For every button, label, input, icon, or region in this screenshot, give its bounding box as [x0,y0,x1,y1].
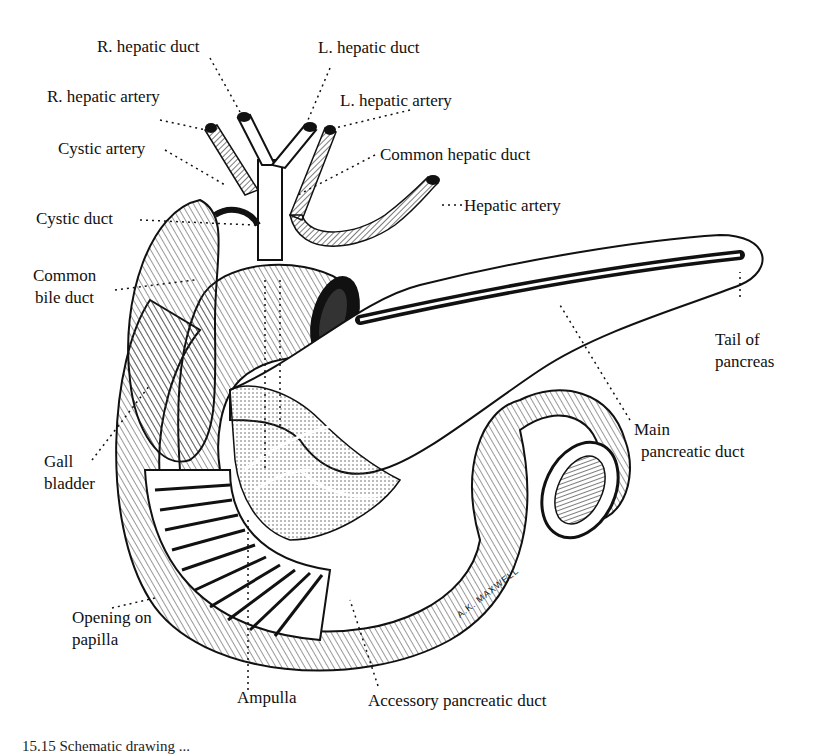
label-l-hepatic-artery: L. hepatic artery [340,91,452,110]
label-cystic-duct: Cystic duct [36,209,113,228]
label-l-hepatic-duct: L. hepatic duct [318,38,420,57]
cystic-duct-shape [215,210,258,225]
common-bile-duct [258,160,282,260]
label-main-pancreatic-duct-line2: pancreatic duct [641,442,744,461]
label-accessory-pancreatic-duct: Accessory pancreatic duct [368,691,546,710]
label-tail-of-pancreas-line1: Tail of [715,330,760,349]
label-ampulla: Ampulla [237,688,297,707]
gall-bladder [128,200,219,462]
figure-caption: 15.15 Schematic drawing ... [22,738,190,755]
label-hepatic-artery: Hepatic artery [464,196,561,215]
r-hepatic-duct-shape [238,115,275,165]
label-opening-on-papilla-line1: Opening on [72,608,152,627]
label-common-bile-duct-line1: Common [33,266,96,285]
label-main-pancreatic-duct-line1: Main [634,420,670,439]
label-gall-bladder-line1: Gall [44,452,73,471]
label-tail-of-pancreas-line2: pancreas [715,352,774,371]
label-r-hepatic-duct: R. hepatic duct [97,37,199,56]
label-opening-on-papilla-line2: papilla [72,630,118,649]
label-cystic-artery: Cystic artery [58,139,145,158]
label-common-bile-duct-line2: bile duct [35,288,94,307]
label-common-hepatic-duct: Common hepatic duct [380,145,530,164]
label-gall-bladder-line2: bladder [44,474,95,493]
label-r-hepatic-artery: R. hepatic artery [47,87,160,106]
